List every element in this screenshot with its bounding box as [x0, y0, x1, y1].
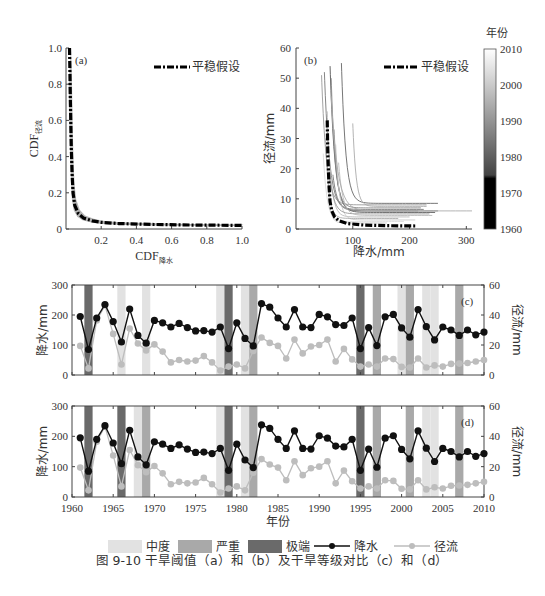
drought-band	[373, 406, 381, 497]
precip-point	[390, 432, 397, 439]
runoff-point	[440, 485, 447, 492]
y-tick-label: 0.2	[48, 187, 62, 199]
runoff-point	[159, 348, 166, 355]
runoff-point	[390, 356, 397, 363]
x-tick-label: 1965	[102, 502, 125, 514]
y-right-tick-label: 40	[489, 309, 501, 321]
precip-point	[423, 445, 430, 452]
runoff-point	[316, 463, 323, 470]
x-tick-label: 1985	[267, 502, 290, 514]
figure: 00.20.40.60.81.00.20.40.60.81.0(a)平稳假设CD…	[0, 0, 545, 596]
runoff-point	[291, 458, 298, 465]
runoff-point	[415, 355, 422, 362]
precip-point	[241, 335, 248, 342]
runoff-point	[168, 481, 175, 488]
x-tick-label: 1970	[143, 502, 166, 514]
runoff-point	[242, 365, 249, 372]
runoff-point	[151, 463, 158, 470]
drought-band	[142, 406, 150, 497]
x-tick-label: 0.4	[130, 234, 144, 246]
x-tick-label: 1995	[349, 502, 372, 514]
runoff-point	[234, 361, 241, 368]
runoff-point	[192, 479, 199, 486]
x-tick-label: 1980	[226, 502, 249, 514]
precip-point	[307, 445, 314, 452]
runoff-point	[374, 485, 381, 492]
runoff-point	[77, 343, 84, 350]
y-tick-label: 30	[280, 133, 292, 145]
precip-point	[316, 432, 323, 439]
precip-point	[250, 464, 257, 471]
y-left-tick-label: 200	[52, 309, 69, 321]
runoff-point	[275, 464, 282, 471]
x-tick-label: 2000	[391, 502, 414, 514]
precip-point	[151, 317, 158, 324]
runoff-point	[242, 487, 249, 494]
runoff-point	[209, 481, 216, 488]
drought-band	[373, 285, 381, 375]
runoff-point	[184, 358, 191, 365]
precip-point	[357, 467, 364, 474]
precip-point	[406, 334, 413, 341]
colorbar-tick-label: 1960	[500, 223, 523, 235]
precip-point	[398, 324, 405, 331]
uncertainty-band	[69, 48, 244, 226]
year-threshold-curve	[331, 78, 421, 208]
runoff-point	[357, 363, 364, 370]
runoff-point	[464, 482, 471, 489]
precip-point	[258, 421, 265, 428]
y-right-tick-label: 40	[489, 430, 501, 442]
precip-point	[472, 331, 479, 338]
precip-point	[208, 450, 215, 457]
x-tick-label: 2010	[473, 502, 496, 514]
runoff-point	[266, 461, 273, 468]
precip-point	[258, 300, 265, 307]
drought-band	[356, 285, 364, 375]
precip-point	[373, 464, 380, 471]
precip-point	[307, 324, 314, 331]
precip-point	[291, 306, 298, 313]
runoff-point	[324, 458, 331, 465]
y-tick-label: 0.4	[48, 151, 62, 163]
legend-label: 径流	[434, 540, 458, 554]
precip-point	[480, 329, 487, 336]
precip-point	[274, 314, 281, 321]
runoff-point	[374, 363, 381, 370]
y-left-tick-label: 0	[63, 369, 69, 381]
precip-point	[373, 342, 380, 349]
precip-point	[274, 436, 281, 443]
runoff-point	[118, 483, 125, 490]
precip-point	[464, 326, 471, 333]
precip-point	[382, 313, 389, 320]
runoff-point	[440, 363, 447, 370]
y-tick-label: 50	[280, 72, 292, 84]
panel-label: (d)	[461, 416, 474, 429]
drought-band	[356, 406, 364, 497]
precip-point	[447, 448, 454, 455]
precip-point	[110, 318, 117, 325]
precip-point	[93, 314, 100, 321]
y-right-tick-label: 20	[489, 461, 501, 473]
precip-point	[101, 301, 108, 308]
runoff-point	[349, 356, 356, 363]
precip-point	[382, 435, 389, 442]
y-right-tick-label: 0	[489, 369, 495, 381]
precip-point	[241, 456, 248, 463]
precip-point	[167, 445, 174, 452]
precip-point	[77, 434, 84, 441]
year-threshold-curve	[327, 111, 409, 217]
drought-band	[406, 406, 414, 497]
drought-band	[406, 285, 414, 375]
legend-swatch	[178, 540, 212, 553]
panel-label: (c)	[461, 295, 474, 308]
legend-swatch	[248, 540, 282, 553]
y-right-axis-label: 径流/mm	[510, 426, 524, 477]
precip-point	[167, 323, 174, 330]
runoff-point	[448, 361, 455, 368]
precip-point	[159, 441, 166, 448]
y-tick-label: 20	[280, 163, 292, 175]
runoff-point	[291, 336, 298, 343]
precip-point	[225, 467, 232, 474]
x-tick-label: 1960	[61, 502, 84, 514]
y-left-tick-label: 100	[52, 461, 69, 473]
